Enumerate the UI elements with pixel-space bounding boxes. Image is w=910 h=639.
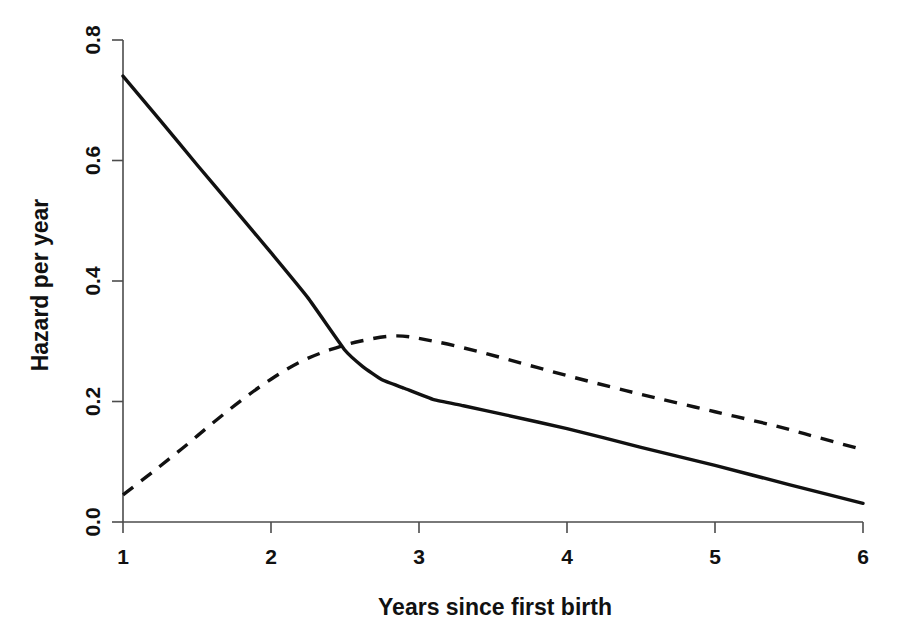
x-tick-label: 6 <box>857 545 869 568</box>
chart-canvas: 0.00.20.40.60.8 123456 Hazard per year Y… <box>0 0 910 639</box>
series-dashed-line <box>123 336 863 495</box>
x-tick-label: 4 <box>561 545 573 568</box>
series-solid-line <box>123 76 863 503</box>
y-tick-label: 0.6 <box>81 146 104 175</box>
y-tick-label: 0.0 <box>81 507 104 536</box>
y-tick-label: 0.4 <box>81 266 104 296</box>
x-axis-title: Years since first birth <box>378 594 612 620</box>
y-axis-ticks <box>112 40 123 522</box>
x-axis-ticks <box>123 522 863 533</box>
y-tick-label: 0.2 <box>81 387 104 416</box>
x-tick-label: 3 <box>413 545 425 568</box>
hazard-chart-figure: 0.00.20.40.60.8 123456 Hazard per year Y… <box>0 0 910 639</box>
y-axis-tick-labels: 0.00.20.40.60.8 <box>81 25 104 537</box>
x-tick-label: 5 <box>709 545 721 568</box>
x-tick-label: 1 <box>117 545 129 568</box>
y-tick-label: 0.8 <box>81 25 104 55</box>
x-tick-label: 2 <box>265 545 277 568</box>
x-axis-tick-labels: 123456 <box>117 545 869 568</box>
y-axis-title: Hazard per year <box>27 199 53 372</box>
